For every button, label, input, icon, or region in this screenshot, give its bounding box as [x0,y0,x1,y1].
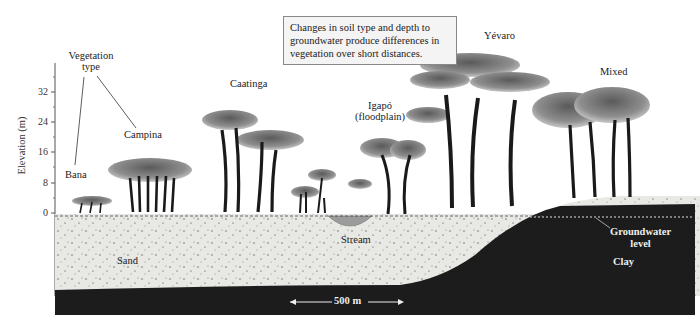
label-bana: Bana [65,169,87,180]
caatinga-trees [202,110,304,212]
label-yevaro: Yévaro [484,30,515,41]
caption-box: Changes in soil type and depth to ground… [283,16,457,65]
tick-16: 16 [28,146,48,157]
label-stream: Stream [341,234,371,245]
label-clay: Clay [613,256,634,267]
tick-0: 0 [28,207,48,218]
label-igapo: Igapó (floodplain) [350,100,410,122]
mixed-trees [532,87,650,198]
yevaro-trees [406,53,550,208]
label-caatinga: Caatinga [230,78,267,89]
y-axis-label: Elevation (m) [16,116,27,174]
palm-trees [291,169,336,213]
tick-32: 32 [28,86,48,97]
label-mixed: Mixed [600,66,627,77]
elevation-axis [51,63,55,296]
tick-8: 8 [28,177,48,188]
igapo-trees [348,138,426,214]
bana-trees [72,196,112,213]
tick-24: 24 [28,116,48,127]
label-sand: Sand [117,255,138,266]
label-campina: Campina [124,129,162,140]
scale-bar-label: 500 m [334,295,361,306]
label-groundwater-level: Groundwater level [610,226,671,250]
vegetation-type-title: Vegetation type [66,50,116,72]
campina-trees [108,158,192,212]
